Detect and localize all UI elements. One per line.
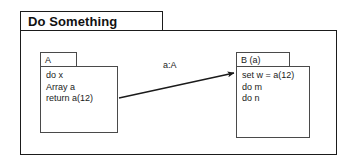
object-box-a-name: A xyxy=(45,53,51,67)
object-box-a-line-1: do x xyxy=(46,70,93,82)
object-box-b-line-1: set w = a(12) xyxy=(242,70,294,82)
object-box-a-line-3: return a(12) xyxy=(46,93,93,105)
object-box-b-lines: set w = a(12) do m do n xyxy=(242,70,294,105)
interaction-frame-title-tab: Do Something xyxy=(20,11,163,31)
object-box-b-line-2: do m xyxy=(242,82,294,94)
interaction-frame-title: Do Something xyxy=(28,13,117,31)
diagram-canvas: Do Something do x Array a return a(12) A… xyxy=(0,0,351,167)
object-box-a-body: do x Array a return a(12) xyxy=(40,66,118,133)
object-box-a-line-2: Array a xyxy=(46,82,93,94)
object-box-b-line-3: do n xyxy=(242,93,294,105)
object-box-a-header: A xyxy=(40,52,77,67)
object-box-b-name: B (a) xyxy=(241,53,261,67)
message-arrow-label: a:A xyxy=(163,60,177,70)
object-box-b-body: set w = a(12) do m do n xyxy=(236,66,310,138)
object-box-a-lines: do x Array a return a(12) xyxy=(46,70,93,105)
object-box-b-header: B (a) xyxy=(236,52,290,67)
